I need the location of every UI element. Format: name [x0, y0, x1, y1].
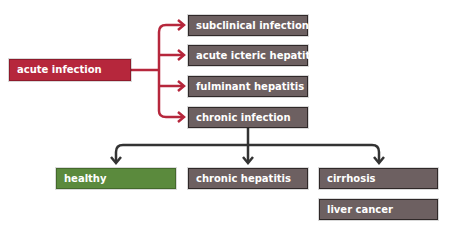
acute-infection-box: acute infection [9, 59, 131, 81]
red-branch-arrows [131, 20, 184, 122]
chronic-hepatitis-box: chronic hepatitis [188, 168, 308, 189]
subclinical-infection-box: subclinical infection [188, 15, 308, 36]
fulminant-hepatitis-box: fulminant hepatitis [188, 76, 308, 97]
dark-branch-arrows [111, 127, 384, 163]
chronic-infection-box: chronic infection [188, 107, 308, 128]
healthy-box: healthy [56, 168, 176, 189]
acute-icteric-hepatitis-box: acute icteric hepatitis [188, 45, 308, 66]
cirrhosis-box: cirrhosis [319, 168, 438, 189]
liver-cancer-box: liver cancer [319, 199, 438, 220]
